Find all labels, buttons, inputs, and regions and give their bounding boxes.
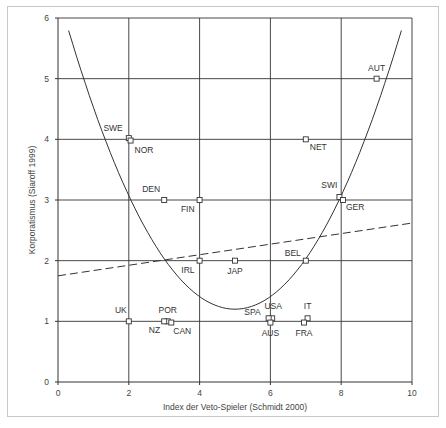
point-marker-ger: [340, 198, 345, 203]
point-marker-net: [303, 137, 308, 142]
point-marker-fra: [302, 320, 307, 325]
point-label-por: POR: [159, 305, 177, 315]
x-tick-label: 6: [268, 388, 273, 398]
point-label-swi: SWI: [321, 180, 337, 190]
y-tick-label: 1: [44, 316, 49, 326]
point-label-den: DEN: [142, 184, 160, 194]
point-label-can: CAN: [173, 326, 191, 336]
y-tick-label: 4: [44, 134, 49, 144]
point-label-uk: UK: [115, 305, 127, 315]
x-tick-label: 2: [126, 388, 131, 398]
point-marker-irl: [197, 258, 202, 263]
point-label-aut: AUT: [368, 63, 385, 73]
point-marker-nz: [162, 319, 167, 324]
point-label-swe: SWE: [103, 123, 123, 133]
scatter-chart: 02468100123456 SWENORDENFINAUTNETSWIGERI…: [0, 0, 446, 428]
point-label-usa: USA: [264, 301, 282, 311]
point-label-irl: IRL: [181, 265, 195, 275]
point-label-nor: NOR: [135, 145, 154, 155]
point-label-ger: GER: [346, 202, 364, 212]
x-tick-label: 10: [407, 388, 417, 398]
point-label-spa: SPA: [244, 307, 261, 317]
point-label-fin: FIN: [181, 204, 195, 214]
point-label-it: IT: [304, 301, 312, 311]
point-label-jap: JAP: [227, 266, 243, 276]
y-tick-label: 6: [44, 13, 49, 23]
y-tick-label: 2: [44, 256, 49, 266]
point-label-net: NET: [310, 142, 327, 152]
point-label-fra: FRA: [296, 328, 313, 338]
y-tick-label: 0: [44, 377, 49, 387]
point-marker-uk: [126, 319, 131, 324]
point-marker-aut: [374, 76, 379, 81]
y-tick-label: 3: [44, 195, 49, 205]
x-axis-title: Index der Veto-Spieler (Schmidt 2000): [163, 402, 307, 412]
y-axis-title: Korporatismus (Siaroff 1999): [27, 146, 37, 255]
point-label-bel: BEL: [285, 248, 301, 258]
point-label-nz: NZ: [149, 325, 160, 335]
point-marker-bel: [303, 258, 308, 263]
y-tick-label: 5: [44, 74, 49, 84]
point-marker-jap: [233, 258, 238, 263]
point-marker-fin: [197, 198, 202, 203]
x-tick-label: 4: [197, 388, 202, 398]
point-marker-can: [169, 320, 174, 325]
x-tick-label: 8: [339, 388, 344, 398]
point-marker-nor: [128, 138, 133, 143]
grid-lines: [58, 18, 412, 382]
point-label-aus: AUS: [262, 328, 280, 338]
x-tick-label: 0: [56, 388, 61, 398]
point-marker-aus: [268, 320, 273, 325]
point-marker-den: [162, 198, 167, 203]
